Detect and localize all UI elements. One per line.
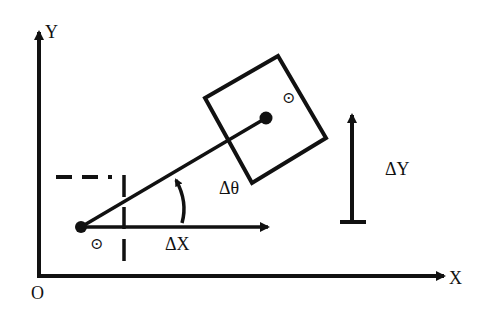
pose-connector-line <box>81 118 266 227</box>
delta-theta-label: Δθ <box>219 178 239 198</box>
end-center-symbol: ⊙ <box>282 89 295 106</box>
delta-y-label: ΔY <box>385 159 410 179</box>
origin-label: O <box>31 283 44 303</box>
delta-y-arrow <box>340 115 366 222</box>
delta-theta-arrow <box>176 180 184 223</box>
x-axis-label: X <box>449 268 462 288</box>
start-center-symbol: ⊙ <box>90 235 103 252</box>
pose-diagram: Y X O ⊙ ΔX Δθ ⊙ ΔY <box>0 0 492 312</box>
delta-x-label: ΔX <box>165 234 190 254</box>
y-axis-label: Y <box>45 22 58 42</box>
robot-center-dot <box>260 112 273 125</box>
